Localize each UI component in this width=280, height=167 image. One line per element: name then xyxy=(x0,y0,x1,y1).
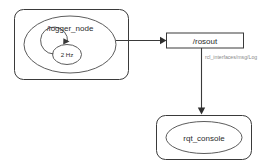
logger-node-label: /logger_node xyxy=(47,24,94,33)
diagram-canvas: /logger_node 2 Hz /rosout rcl_interfaces… xyxy=(0,0,280,167)
publisher-group-container[interactable] xyxy=(15,10,129,80)
message-type-label: rcl_interfaces/msg/Log xyxy=(205,54,257,60)
topic-label: /rosout xyxy=(193,37,218,46)
ros-graph-svg: /logger_node 2 Hz /rosout rcl_interfaces… xyxy=(0,0,280,167)
rate-label: 2 Hz xyxy=(61,51,74,58)
edge-publisher-to-topic-arrowhead-icon xyxy=(160,37,167,44)
edge-topic-to-subscriber-arrowhead-icon xyxy=(198,108,205,115)
rqt-console-label: rqt_console xyxy=(183,134,225,143)
